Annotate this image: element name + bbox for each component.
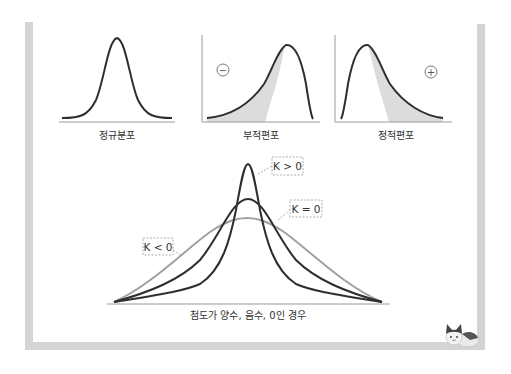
cat-icon — [446, 324, 479, 347]
distribution-diagram: 정규분포 − 부적편포 + 정적편포 K > 0 — [0, 0, 511, 374]
k-negative-label: K < 0 — [143, 241, 172, 253]
negative-skew-caption: 부적편포 — [243, 130, 279, 141]
positive-skew-shading — [368, 45, 443, 122]
leader-line — [278, 210, 290, 220]
label-k-zero: K = 0 — [278, 200, 322, 220]
label-k-negative: K < 0 — [143, 238, 182, 256]
normal-curve — [62, 38, 172, 118]
negative-skew-shading — [207, 45, 285, 122]
minus-sign: − — [219, 65, 227, 76]
normal-caption: 정규분포 — [99, 130, 135, 141]
kurtosis-chart: K > 0 K = 0 K < 0 첨도가 양수, 음수, 0인 경우 — [107, 157, 390, 321]
k-zero-label: K = 0 — [291, 203, 320, 215]
label-k-positive: K > 0 — [258, 157, 303, 175]
kurtosis-caption: 첨도가 양수, 음수, 0인 경우 — [190, 309, 305, 321]
k-positive-label: K > 0 — [273, 160, 302, 172]
kurtosis-positive-curve — [114, 164, 382, 302]
positive-skew-caption: 정적편포 — [378, 130, 414, 141]
positive-skew-panel: + 정적편포 — [335, 35, 452, 141]
normal-distribution-panel: 정규분포 — [59, 38, 175, 141]
plus-sign: + — [427, 67, 435, 78]
leader-line — [258, 166, 272, 174]
negative-skew-panel: − 부적편포 — [202, 35, 320, 141]
